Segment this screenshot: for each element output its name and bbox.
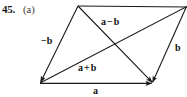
label-a-plus-b: a+b <box>78 63 96 73</box>
label-b: b <box>175 43 181 53</box>
label-a: a <box>93 86 98 96</box>
label-a-plus-b-operator: + <box>83 62 91 73</box>
side-top-line <box>78 6 187 7</box>
label-a-minus-b-second: b <box>114 16 120 27</box>
label-a-plus-b-second: b <box>91 62 97 73</box>
vector-parallelogram-figure: 45. (a) −b a−b a+b a b <box>0 0 187 97</box>
parallelogram-diagram <box>0 0 187 97</box>
label-a-minus-b: a−b <box>101 17 119 27</box>
label-minus-b: −b <box>41 36 52 46</box>
side-right-b-line <box>153 7 187 83</box>
label-a-minus-b-operator: − <box>106 16 114 27</box>
